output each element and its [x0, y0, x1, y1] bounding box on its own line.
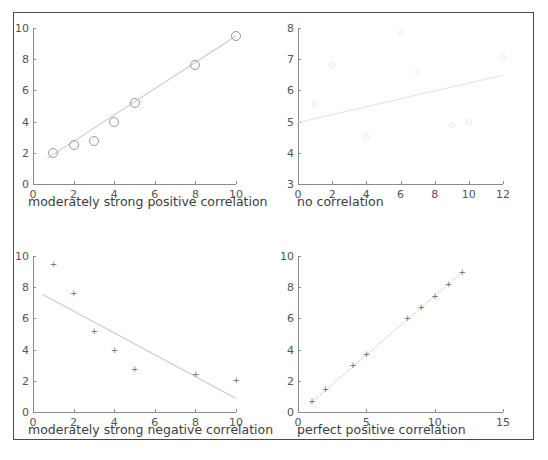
x-tick — [435, 181, 436, 184]
figure-page: 02468100246810moderately strong positive… — [0, 0, 548, 460]
data-point — [231, 31, 241, 41]
x-tick — [503, 181, 504, 184]
x-tick — [33, 181, 34, 184]
y-tick-label: 4 — [287, 146, 294, 159]
chart-caption-perfect-positive: perfect positive correlation — [297, 422, 466, 437]
y-tick — [33, 256, 36, 257]
chart-caption-moderately-strong-positive: moderately strong positive correlation — [28, 194, 268, 209]
x-tick — [469, 181, 470, 184]
x-tick — [195, 181, 196, 184]
data-point — [69, 140, 79, 150]
y-tick-label: 8 — [22, 53, 29, 66]
data-point — [48, 148, 58, 158]
chart-panel-no-correlation: 345678024681012no correlation — [276, 13, 535, 227]
y-tick — [33, 287, 36, 288]
y-tick — [33, 350, 36, 351]
x-tick — [401, 181, 402, 184]
data-point — [349, 362, 356, 369]
y-tick-label: 10 — [15, 22, 29, 35]
data-point — [192, 370, 199, 377]
data-point — [418, 303, 425, 310]
trend-line — [298, 75, 503, 123]
y-tick — [298, 59, 301, 60]
x-tick — [366, 409, 367, 412]
y-tick — [33, 122, 36, 123]
y-axis-line — [33, 256, 34, 412]
y-tick — [298, 90, 301, 91]
y-tick-label: 8 — [22, 281, 29, 294]
y-tick-label: 2 — [22, 146, 29, 159]
y-axis-line — [33, 28, 34, 184]
y-tick-label: 4 — [22, 115, 29, 128]
y-tick-label: 6 — [22, 312, 29, 325]
data-point — [111, 347, 118, 354]
y-tick-label: 2 — [22, 374, 29, 387]
x-tick — [33, 409, 34, 412]
data-point — [445, 281, 452, 288]
chart-caption-moderately-strong-negative: moderately strong negative correlation — [28, 422, 273, 437]
data-point — [431, 292, 438, 299]
x-axis-line — [298, 412, 503, 413]
y-tick — [33, 153, 36, 154]
x-axis-line — [298, 184, 503, 185]
plot-area-moderately-strong-positive: 02468100246810 — [33, 28, 236, 184]
x-tick — [236, 409, 237, 412]
y-tick — [33, 381, 36, 382]
y-tick-label: 10 — [15, 250, 29, 263]
y-tick-label: 2 — [287, 374, 294, 387]
data-point — [329, 62, 336, 69]
y-tick-label: 3 — [287, 178, 294, 191]
plot-area-moderately-strong-negative: 02468100246810 — [33, 256, 236, 412]
data-point — [130, 98, 140, 108]
y-tick-label: 6 — [287, 84, 294, 97]
y-tick-label: 0 — [287, 406, 294, 419]
y-tick — [298, 318, 301, 319]
data-point — [500, 54, 507, 61]
chart-panel-moderately-strong-positive: 02468100246810moderately strong positive… — [14, 13, 276, 227]
x-tick-label: 10 — [462, 188, 476, 201]
figure-frame: 02468100246810moderately strong positive… — [13, 12, 534, 440]
data-point — [131, 366, 138, 373]
x-tick — [236, 181, 237, 184]
plot-area-perfect-positive: 0246810051015 — [298, 256, 503, 412]
x-tick-label: 15 — [496, 416, 510, 429]
y-tick-label: 10 — [280, 250, 294, 263]
y-tick-label: 4 — [22, 343, 29, 356]
y-tick-label: 8 — [287, 281, 294, 294]
x-tick — [298, 181, 299, 184]
y-tick-label: 0 — [22, 406, 29, 419]
data-point — [90, 327, 97, 334]
y-tick-label: 6 — [287, 312, 294, 325]
y-tick-label: 5 — [287, 115, 294, 128]
x-tick — [195, 409, 196, 412]
y-tick — [33, 184, 36, 185]
plot-area-no-correlation: 345678024681012 — [298, 28, 503, 184]
y-tick — [298, 381, 301, 382]
data-point — [363, 350, 370, 357]
chart-panel-moderately-strong-negative: 02468100246810moderately strong negative… — [14, 227, 276, 441]
y-tick-label: 0 — [22, 178, 29, 191]
data-point — [190, 60, 200, 70]
data-point — [322, 385, 329, 392]
data-point — [404, 314, 411, 321]
x-tick — [366, 181, 367, 184]
data-point — [397, 29, 404, 36]
x-tick — [503, 409, 504, 412]
y-tick — [33, 90, 36, 91]
x-tick — [114, 181, 115, 184]
chart-caption-no-correlation: no correlation — [297, 194, 384, 209]
x-tick — [155, 409, 156, 412]
data-point — [233, 377, 240, 384]
x-tick — [298, 409, 299, 412]
y-tick — [298, 287, 301, 288]
x-tick-label: 12 — [496, 188, 510, 201]
data-point — [448, 121, 455, 128]
x-tick-label: 8 — [431, 188, 438, 201]
data-point — [50, 260, 57, 267]
data-point — [312, 101, 319, 108]
x-tick — [435, 409, 436, 412]
y-axis-line — [298, 256, 299, 412]
data-point — [70, 290, 77, 297]
x-tick — [114, 409, 115, 412]
data-point — [308, 398, 315, 405]
